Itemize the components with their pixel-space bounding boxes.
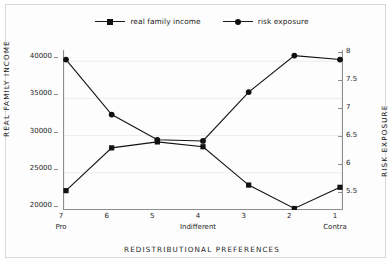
legend-label-real-family-income: real family income — [130, 17, 200, 26]
circle-marker-icon — [235, 19, 241, 25]
y-tick-right-label: 6.5 — [346, 131, 376, 139]
x-tick-label: 4 — [178, 212, 218, 220]
x-tick-label: 6 — [87, 212, 127, 220]
y-tick-left-mark — [54, 57, 58, 58]
y-tick-left-mark — [54, 94, 58, 95]
x-tick-sublabel: Indifferent — [168, 223, 228, 231]
y-tick-right-label: 7 — [346, 103, 376, 111]
plot-area — [63, 50, 343, 210]
legend-line-circle — [223, 21, 253, 22]
y-tick-left-label: 25000 — [12, 164, 52, 172]
y-tick-right-label: 6 — [346, 159, 376, 167]
chart-frame: real family income risk exposure REAL FA… — [5, 4, 386, 258]
x-tick-sublabel: Contra — [305, 223, 365, 231]
y-tick-left-mark — [54, 132, 58, 133]
plot-svg — [63, 50, 343, 210]
legend-item-real-family-income: real family income — [95, 17, 200, 26]
y-tick-left-label: 35000 — [12, 89, 52, 97]
y-tick-left-label: 40000 — [12, 52, 52, 60]
chart-legend: real family income risk exposure — [6, 17, 392, 26]
x-tick-label: 3 — [224, 212, 264, 220]
y-tick-right-label: 7.5 — [346, 75, 376, 83]
x-axis-title: REDISTRIBUTIONAL PREFERENCES — [6, 245, 392, 254]
x-tick-label: 5 — [132, 212, 172, 220]
legend-item-risk-exposure: risk exposure — [223, 17, 309, 26]
y-axis-left-title: REAL FAMILY INCOME — [2, 40, 11, 137]
legend-label-risk-exposure: risk exposure — [258, 17, 309, 26]
x-tick-label: 1 — [315, 212, 355, 220]
y-axis-right-title: RISK EXPOSURE — [380, 105, 389, 177]
y-tick-right-label: 5.5 — [346, 187, 376, 195]
y-tick-left-mark — [54, 169, 58, 170]
y-tick-left-mark — [54, 206, 58, 207]
x-tick-sublabel: Pro — [31, 223, 91, 231]
y-tick-left-label: 30000 — [12, 127, 52, 135]
x-tick-label: 7 — [41, 212, 81, 220]
y-tick-right-label: 8 — [346, 47, 376, 55]
legend-line-square — [95, 21, 125, 22]
square-marker-icon — [107, 19, 113, 25]
x-tick-label: 2 — [269, 212, 309, 220]
y-tick-left-label: 20000 — [12, 201, 52, 209]
